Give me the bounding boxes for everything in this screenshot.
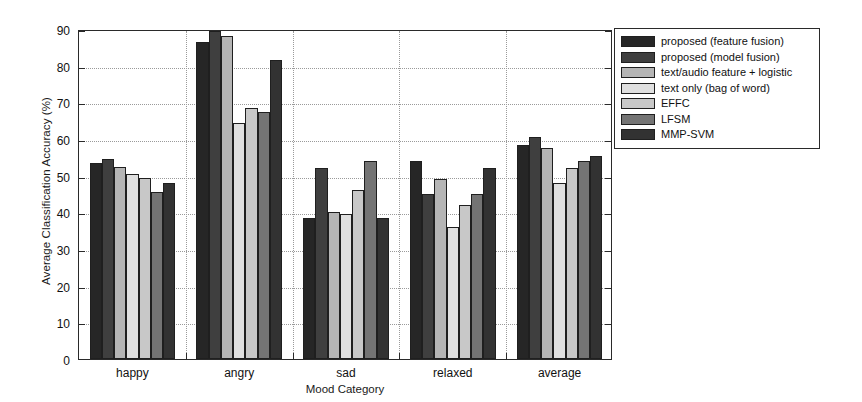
y-tick-mark xyxy=(79,324,85,325)
bar-angry-series-5 xyxy=(245,108,257,359)
bar-relaxed-series-4 xyxy=(447,227,459,359)
bar-relaxed-series-6 xyxy=(471,194,483,359)
y-tick-mark xyxy=(79,104,85,105)
legend-label-2: proposed (model fusion) xyxy=(661,52,780,63)
legend-item-3: text/audio feature + logistic xyxy=(621,65,813,81)
y-tick-label: 70 xyxy=(57,97,70,111)
legend-label-5: EFFC xyxy=(661,98,690,109)
x-tick-label-relaxed: relaxed xyxy=(433,366,472,380)
legend-label-3: text/audio feature + logistic xyxy=(661,67,792,78)
bar-average-series-1 xyxy=(517,145,529,360)
legend-swatch-7 xyxy=(621,129,655,140)
y-tick-label: 0 xyxy=(63,354,70,368)
bar-relaxed-series-2 xyxy=(422,194,434,359)
legend-item-6: LFSM xyxy=(621,112,813,128)
y-tick-mark-right xyxy=(605,104,611,105)
x-tick-mark xyxy=(186,353,187,359)
y-tick-mark-right xyxy=(605,251,611,252)
y-gridline xyxy=(79,68,611,69)
bar-sad-series-1 xyxy=(303,218,315,359)
x-tick-label-average: average xyxy=(538,366,581,380)
bar-angry-series-4 xyxy=(233,123,245,360)
y-tick-mark xyxy=(79,68,85,69)
bar-average-series-5 xyxy=(566,168,578,359)
bar-angry-series-7 xyxy=(270,60,282,359)
y-tick-label: 60 xyxy=(57,134,70,148)
y-tick-label: 80 xyxy=(57,61,70,75)
bar-happy-series-6 xyxy=(151,192,163,359)
bar-happy-series-3 xyxy=(114,167,126,360)
y-tick-mark xyxy=(79,288,85,289)
x-gridline xyxy=(399,31,400,359)
bar-angry-series-6 xyxy=(258,112,270,360)
legend-swatch-1 xyxy=(621,36,655,47)
bar-happy-series-5 xyxy=(139,178,151,360)
bar-angry-series-1 xyxy=(196,42,208,359)
bar-average-series-3 xyxy=(541,148,553,359)
bar-average-series-2 xyxy=(529,137,541,359)
y-tick-label: 50 xyxy=(57,171,70,185)
x-tick-label-angry: angry xyxy=(224,366,254,380)
x-tick-label-sad: sad xyxy=(336,366,355,380)
legend-item-5: EFFC xyxy=(621,96,813,112)
bar-relaxed-series-7 xyxy=(483,168,495,359)
y-tick-mark-right xyxy=(605,324,611,325)
legend-item-7: MMP-SVM xyxy=(621,127,813,143)
legend-swatch-6 xyxy=(621,114,655,125)
y-tick-mark-right xyxy=(605,141,611,142)
bar-average-series-6 xyxy=(578,161,590,359)
bar-sad-series-5 xyxy=(352,190,364,359)
bar-sad-series-6 xyxy=(364,161,376,359)
x-gridline xyxy=(506,31,507,359)
x-gridline xyxy=(293,31,294,359)
bar-happy-series-1 xyxy=(90,163,102,359)
y-tick-mark-right xyxy=(605,214,611,215)
y-tick-mark xyxy=(79,141,85,142)
legend-item-2: proposed (model fusion) xyxy=(621,50,813,66)
bar-chart-figure: Average Classification Accuracy (%) 0102… xyxy=(0,0,862,402)
plot-area: 0102030405060708090happyangrysadrelaxeda… xyxy=(78,30,612,360)
x-tick-mark xyxy=(293,353,294,359)
y-tick-mark-right xyxy=(605,178,611,179)
legend-swatch-3 xyxy=(621,67,655,78)
bar-sad-series-2 xyxy=(315,168,327,359)
y-tick-mark-right xyxy=(605,31,611,32)
x-tick-mark xyxy=(399,353,400,359)
legend-label-4: text only (bag of word) xyxy=(661,83,770,94)
bar-average-series-4 xyxy=(553,183,565,359)
bar-sad-series-3 xyxy=(328,212,340,359)
bar-happy-series-2 xyxy=(102,159,114,359)
bar-relaxed-series-3 xyxy=(434,179,446,359)
chart-legend: proposed (feature fusion)proposed (model… xyxy=(614,28,820,149)
legend-item-4: text only (bag of word) xyxy=(621,81,813,97)
y-tick-label: 90 xyxy=(57,24,70,38)
y-tick-label: 20 xyxy=(57,281,70,295)
y-tick-mark-right xyxy=(605,68,611,69)
y-tick-mark-right xyxy=(605,288,611,289)
x-axis-title: Mood Category xyxy=(78,383,612,395)
bar-average-series-7 xyxy=(590,156,602,360)
y-tick-label: 30 xyxy=(57,244,70,258)
bar-angry-series-2 xyxy=(209,31,221,359)
y-tick-mark xyxy=(79,251,85,252)
x-gridline xyxy=(186,31,187,359)
legend-swatch-5 xyxy=(621,98,655,109)
legend-label-1: proposed (feature fusion) xyxy=(661,36,784,47)
x-tick-mark xyxy=(506,353,507,359)
bar-happy-series-4 xyxy=(126,174,138,359)
bar-sad-series-4 xyxy=(340,214,352,359)
bar-sad-series-7 xyxy=(377,218,389,359)
bar-happy-series-7 xyxy=(163,183,175,359)
bar-relaxed-series-1 xyxy=(410,161,422,359)
bar-angry-series-3 xyxy=(221,36,233,359)
legend-item-1: proposed (feature fusion) xyxy=(621,34,813,50)
legend-swatch-4 xyxy=(621,83,655,94)
y-tick-mark xyxy=(79,178,85,179)
bar-relaxed-series-5 xyxy=(459,205,471,359)
y-axis-title: Average Classification Accuracy (%) xyxy=(40,51,52,331)
y-tick-label: 40 xyxy=(57,207,70,221)
x-tick-label-happy: happy xyxy=(116,366,149,380)
legend-label-7: MMP-SVM xyxy=(661,129,714,140)
y-gridline xyxy=(79,104,611,105)
legend-label-6: LFSM xyxy=(661,114,690,125)
